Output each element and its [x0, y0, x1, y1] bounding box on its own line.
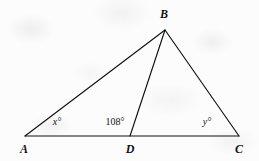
- vertex-label-C: C: [235, 143, 243, 155]
- geometry-figure: B A D C x° 108° y°: [0, 0, 259, 161]
- vertex-label-D: D: [126, 143, 135, 155]
- angle-label-108: 108°: [106, 117, 125, 127]
- triangle-line-art: [0, 0, 259, 161]
- vertex-label-B: B: [160, 8, 168, 20]
- segment-AB: [25, 30, 165, 136]
- angle-label-x: x°: [53, 117, 61, 127]
- angle-label-y: y°: [203, 117, 211, 127]
- vertex-label-A: A: [20, 143, 28, 155]
- segment-BD: [130, 30, 165, 136]
